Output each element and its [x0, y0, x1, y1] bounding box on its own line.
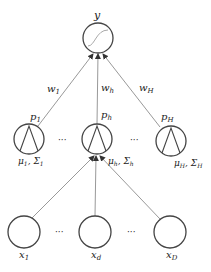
svg-text:μh, Σh: μh, Σh — [108, 156, 134, 167]
hidden-node-1: p1 μ1, Σ1 — [14, 111, 44, 167]
svg-text:μ1, Σ1: μ1, Σ1 — [18, 156, 44, 167]
svg-text:μH, ΣH: μH, ΣH — [174, 158, 203, 169]
input-node-1: x1 — [8, 216, 40, 262]
svg-text:xD: xD — [166, 249, 178, 262]
hidden-ellipsis-1: ··· — [58, 135, 67, 145]
svg-text:p1: p1 — [30, 111, 41, 124]
input-edges — [31, 156, 160, 219]
svg-text:wH: wH — [139, 82, 155, 95]
hidden-node-h: ph μh, Σh — [82, 109, 134, 167]
hidden-ellipsis-2: ··· — [130, 135, 139, 145]
svg-text:ph: ph — [101, 109, 112, 122]
output-label: y — [93, 9, 101, 22]
network-diagram: y w1 wh wH p1 μ1, Σ1 ph μh, Σh pH μH, ΣH… — [0, 0, 211, 272]
svg-text:wh: wh — [101, 82, 114, 95]
output-node: y — [83, 9, 113, 53]
input-ellipsis-1: ··· — [55, 227, 64, 237]
svg-text:w1: w1 — [47, 83, 60, 96]
input-ellipsis-2: ··· — [127, 227, 136, 237]
svg-text:pH: pH — [161, 111, 174, 124]
hidden-node-H: pH μH, ΣH — [156, 111, 203, 169]
input-node-d: xd — [79, 216, 111, 262]
svg-text:xd: xd — [91, 249, 102, 262]
input-node-D: xD — [154, 216, 186, 262]
svg-text:x1: x1 — [19, 249, 29, 262]
